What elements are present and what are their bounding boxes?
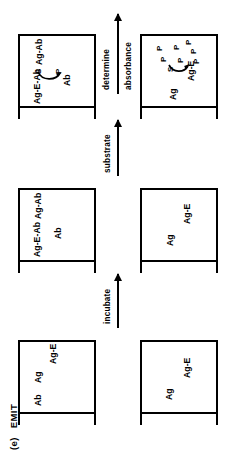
- product-label: P: [159, 57, 168, 62]
- species-label: Ag: [168, 88, 178, 100]
- product-label: P: [172, 45, 181, 50]
- species-label: Ab: [33, 394, 43, 406]
- product-label: P: [189, 49, 198, 54]
- figure-canvas: (e)EMIT Ab Ag Ag-E Ag Ag-E incubate Ag-E…: [0, 0, 240, 456]
- tube-lip-bottom: [216, 260, 218, 273]
- arrow-absorbance-label: absorbance: [124, 42, 133, 90]
- tube-contents: Ab Ag Ag-E: [20, 342, 94, 414]
- product-label: P: [192, 59, 201, 64]
- species-label: Ab: [53, 227, 63, 239]
- tube-lip-bottom: [216, 106, 218, 119]
- tube-lip-bottom: [94, 260, 96, 273]
- product-label: P: [184, 40, 193, 45]
- tube-step2-bottom: Ag Ag-E: [140, 188, 218, 262]
- tube-step3-bottom: Ag Ag-E S P P P P P P P: [140, 34, 218, 108]
- tube-lip-bottom: [94, 412, 96, 425]
- arrow-determine-label: determine: [102, 49, 111, 90]
- tube-step2-top: Ag-E-Ab Ab Ag-Ab: [18, 188, 96, 262]
- species-label: Ag: [165, 234, 175, 246]
- arrow-incubate-label: incubate: [103, 289, 112, 324]
- tube-step1-bottom: Ag Ag-E: [140, 340, 218, 414]
- tube-lip-bottom: [94, 106, 96, 119]
- tube-contents: Ag-E-Ab Ab Ag-Ab S P: [20, 36, 94, 108]
- species-label: Ag-E: [182, 358, 192, 378]
- species-label: Ag-E: [48, 344, 58, 364]
- product-label: P: [155, 46, 164, 51]
- tube-step3-top: Ag-E-Ab Ab Ag-Ab S P: [18, 34, 96, 108]
- tube-step1-top: Ab Ag Ag-E: [18, 340, 96, 414]
- species-label: Ag-E-Ab: [32, 222, 42, 257]
- species-label: Ag-Ab: [33, 193, 43, 219]
- tube-contents: Ag Ag-E: [142, 190, 216, 262]
- tube-contents: Ag Ag-E S P P P P P P P: [142, 36, 216, 108]
- species-label: Ag: [33, 371, 43, 383]
- species-label: Ag-Ab: [34, 39, 44, 65]
- arrow-incubate: [117, 274, 119, 328]
- tube-contents: Ag Ag-E: [142, 342, 216, 414]
- product-label: P: [176, 58, 185, 63]
- reaction-arc-icon: [35, 68, 65, 84]
- panel-letter: (e): [8, 437, 19, 450]
- arrow-determine-absorbance: [117, 14, 119, 94]
- tube-contents: Ag-E-Ab Ab Ag-Ab: [20, 190, 94, 262]
- species-label: Ag-E: [182, 204, 192, 224]
- species-label: Ag: [164, 388, 174, 400]
- arrow-substrate-label: substrate: [103, 134, 112, 173]
- arrow-substrate: [117, 120, 119, 176]
- tube-lip-bottom: [216, 412, 218, 425]
